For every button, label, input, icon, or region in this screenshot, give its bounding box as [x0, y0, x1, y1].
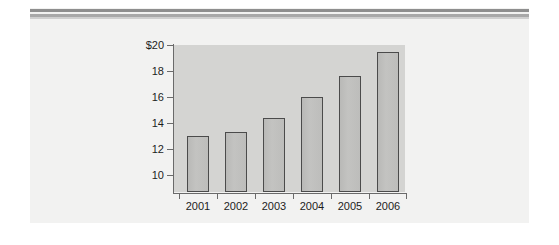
x-axis-line	[173, 193, 406, 194]
y-axis-label-12: 12	[122, 144, 164, 155]
y-axis-tick	[167, 45, 174, 46]
bar-2005	[339, 76, 361, 192]
y-axis-label-text: 12	[122, 144, 164, 155]
y-axis-label-text: 14	[122, 118, 164, 129]
x-axis-label-2006: 2006	[369, 200, 407, 212]
bar-chart: $20 18 16 14 12 10 2001	[0, 0, 559, 245]
x-axis-label-2003: 2003	[255, 200, 293, 212]
y-axis-tick	[167, 71, 174, 72]
bar-2001	[187, 136, 209, 192]
figure-root: $20 18 16 14 12 10 2001	[0, 0, 559, 245]
y-axis-tick	[167, 149, 174, 150]
y-axis-label-10: 10	[122, 170, 164, 181]
bar-2003	[263, 118, 285, 192]
y-axis-label-text: 16	[122, 92, 164, 103]
y-axis-label-20: $20	[122, 40, 164, 51]
bar-2004	[301, 97, 323, 192]
y-axis-tick	[167, 123, 174, 124]
x-axis-label-2005: 2005	[331, 200, 369, 212]
y-axis-label-text: 10	[122, 170, 164, 181]
y-axis-tick	[167, 97, 174, 98]
x-axis-label-2002: 2002	[217, 200, 255, 212]
x-axis-label-2004: 2004	[293, 200, 331, 212]
x-axis-tick	[331, 193, 332, 199]
y-axis-label-14: 14	[122, 118, 164, 129]
x-axis-tick	[217, 193, 218, 199]
y-axis-label-text: $20	[122, 40, 164, 51]
x-axis-tick	[406, 193, 407, 199]
x-axis-tick	[255, 193, 256, 199]
x-axis-label-2001: 2001	[179, 200, 217, 212]
y-axis-tick	[167, 175, 174, 176]
y-axis-label-text: 18	[122, 66, 164, 77]
bar-2006	[377, 52, 399, 193]
y-axis-line	[173, 44, 174, 194]
bar-2002	[225, 132, 247, 192]
y-axis-label-16: 16	[122, 92, 164, 103]
x-axis-tick	[179, 193, 180, 199]
x-axis-tick	[293, 193, 294, 199]
x-axis-tick	[369, 193, 370, 199]
y-axis-label-18: 18	[122, 66, 164, 77]
